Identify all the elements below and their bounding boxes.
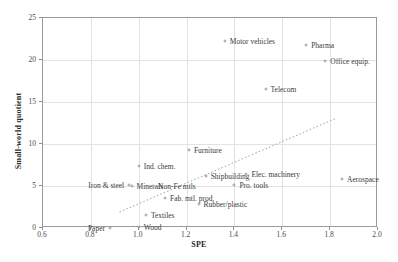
y-tick-label: 0: [32, 223, 36, 232]
data-point: [264, 87, 267, 90]
data-point: [109, 226, 112, 229]
gridline-vertical: [234, 18, 235, 226]
y-tick-label: 20: [29, 55, 37, 64]
y-tick-label: 5: [32, 181, 36, 190]
data-point-label: Office equip.: [330, 56, 369, 65]
data-point: [187, 148, 190, 151]
data-point: [152, 185, 155, 188]
x-tick-label: 1.8: [324, 230, 333, 239]
data-point-label: Rubber/plastic: [204, 200, 248, 209]
x-axis-title: SPE: [0, 240, 398, 249]
x-tick-label: 2.0: [372, 230, 381, 239]
scatter-chart-figure: Motor vehiclesPharmaOffice equip.Telecom…: [0, 0, 398, 262]
y-tick-mark: [39, 227, 42, 228]
gridline-horizontal: [43, 102, 376, 103]
x-tick-label: 1.2: [181, 230, 190, 239]
y-tick-label: 15: [29, 97, 37, 106]
plot-area: Motor vehiclesPharmaOffice equip.Telecom…: [42, 17, 377, 227]
x-tick-label: 0.6: [37, 230, 46, 239]
y-tick-mark: [39, 17, 42, 18]
y-tick-label: 10: [29, 139, 37, 148]
data-point: [130, 185, 133, 188]
y-tick-mark: [39, 59, 42, 60]
data-point-label: Elec. machinery: [251, 170, 300, 179]
data-point-label: Iron & steel: [88, 181, 124, 190]
data-point: [341, 178, 344, 181]
data-point-label: Ind. chem.: [144, 161, 176, 170]
data-point: [137, 164, 140, 167]
data-point: [197, 203, 200, 206]
gridline-vertical: [282, 18, 283, 226]
data-point-label: Shipbuilding: [211, 171, 250, 180]
y-tick-mark: [39, 185, 42, 186]
data-point-label: Non-Fe mtls: [158, 182, 196, 191]
data-point: [164, 196, 167, 199]
data-point: [305, 43, 308, 46]
data-point-label: Furniture: [194, 145, 222, 154]
gridline-vertical: [91, 18, 92, 226]
data-point: [204, 174, 207, 177]
y-axis-title: Small-world quotient: [14, 61, 23, 201]
y-tick-label: 25: [29, 13, 37, 22]
data-point: [324, 59, 327, 62]
data-point: [233, 184, 236, 187]
data-point-label: Wood: [144, 223, 162, 232]
x-tick-label: 1.6: [277, 230, 286, 239]
data-point-label: Aerospace: [347, 175, 379, 184]
data-point-label: Pro. tools: [239, 181, 268, 190]
data-point-label: Motor vehicles: [230, 36, 275, 45]
x-tick-label: 1.4: [229, 230, 238, 239]
y-tick-mark: [39, 143, 42, 144]
x-tick-label: 0.8: [85, 230, 94, 239]
data-point-label: Textiles: [151, 211, 175, 220]
x-tick-label: 1.0: [133, 230, 142, 239]
gridline-vertical: [139, 18, 140, 226]
data-point-label: Pharma: [311, 40, 334, 49]
data-point-label: Telecom: [271, 84, 297, 93]
data-point: [144, 214, 147, 217]
data-point: [223, 39, 226, 42]
y-tick-mark: [39, 101, 42, 102]
